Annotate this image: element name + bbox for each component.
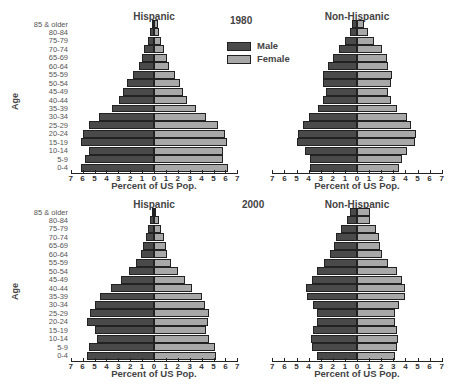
bar-male — [143, 242, 154, 250]
legend-label-male: Male — [257, 40, 278, 51]
x-tick-label: 5 — [413, 362, 423, 371]
x-tick-label: 1 — [137, 362, 147, 371]
bar-female — [357, 225, 376, 233]
bar-male — [339, 45, 357, 53]
bar-female — [154, 96, 187, 104]
bar-male — [323, 71, 357, 79]
bar-male — [100, 293, 154, 301]
x-tick-label: 5 — [209, 174, 219, 183]
bar-male — [87, 318, 154, 326]
x-tick-label: 6 — [78, 174, 88, 183]
x-tick-label: 6 — [279, 174, 289, 183]
bar-female — [154, 352, 216, 360]
bar-female — [357, 155, 402, 163]
bar-female — [154, 326, 206, 334]
x-tick-label: 6 — [279, 362, 289, 371]
bar-male — [317, 352, 357, 360]
bar-female — [357, 37, 374, 45]
x-tick-label: 2 — [125, 174, 135, 183]
bar-male — [123, 88, 154, 96]
bar-male — [347, 216, 357, 224]
bar-male — [310, 155, 357, 163]
bar-male — [350, 28, 357, 36]
age-label: 0-4 — [0, 163, 68, 172]
bar-male — [141, 250, 154, 258]
x-tick-label: 5 — [90, 174, 100, 183]
bar-female — [154, 267, 178, 275]
legend-label-female: Female — [257, 53, 290, 64]
bar-female — [357, 208, 370, 216]
bar-female — [154, 113, 206, 121]
bar-female — [154, 79, 180, 87]
x-tick-label: 1 — [340, 362, 350, 371]
x-tick-label: 0 — [352, 174, 362, 183]
bar-female — [154, 318, 208, 326]
bar-male — [129, 267, 154, 275]
bar-male — [311, 335, 357, 343]
bar-female — [357, 267, 397, 275]
x-tick-label: 6 — [425, 362, 435, 371]
x-tick-label: 4 — [101, 174, 111, 183]
bar-male — [112, 105, 154, 113]
x-tick-label: 7 — [267, 362, 277, 371]
bar-male — [341, 225, 357, 233]
x-tick-label: 4 — [400, 174, 410, 183]
x-tick-label: 3 — [316, 174, 326, 183]
bar-female — [357, 138, 415, 146]
bar-female — [154, 147, 223, 155]
bar-male — [306, 284, 357, 292]
bar-female — [154, 71, 175, 79]
bar-male — [142, 54, 154, 62]
bar-female — [154, 121, 218, 129]
bar-female — [357, 54, 387, 62]
bar-female — [357, 147, 407, 155]
x-tick-label: 3 — [388, 174, 398, 183]
bar-male — [89, 147, 154, 155]
bar-female — [357, 88, 388, 96]
bar-male — [312, 276, 357, 284]
x-tick-label: 2 — [125, 362, 135, 371]
bar-male — [99, 113, 154, 121]
bar-male — [313, 301, 357, 309]
x-tick-label: 7 — [437, 362, 447, 371]
year-label-1980: 1980 — [230, 15, 252, 26]
age-label: 0-4 — [0, 351, 68, 360]
bar-male — [89, 343, 154, 351]
bar-female — [154, 335, 209, 343]
bar-female — [357, 309, 395, 317]
x-tick-label: 1 — [340, 174, 350, 183]
x-tick-label: 6 — [220, 174, 230, 183]
bar-male — [95, 301, 155, 309]
bar-male — [328, 62, 357, 70]
bar-female — [357, 318, 395, 326]
bar-female — [357, 293, 405, 301]
x-tick-label: 2 — [376, 174, 386, 183]
x-tick-label: 3 — [316, 362, 326, 371]
bar-female — [357, 233, 379, 241]
x-tick-label: 6 — [425, 174, 435, 183]
bar-male — [345, 37, 357, 45]
bar-female — [154, 138, 227, 146]
bar-male — [133, 71, 154, 79]
x-tick-label: 1 — [161, 362, 171, 371]
x-tick-label: 3 — [113, 362, 123, 371]
bar-female — [357, 96, 391, 104]
bar-male — [119, 96, 154, 104]
legend-item-female: Female — [227, 53, 290, 66]
bar-female — [154, 28, 159, 36]
bar-female — [154, 343, 215, 351]
bar-female — [154, 62, 169, 70]
bar-female — [154, 216, 159, 224]
x-tick-label: 4 — [197, 362, 207, 371]
bar-male — [121, 276, 154, 284]
bar-female — [154, 45, 164, 53]
bar-male — [323, 96, 357, 104]
bar-female — [154, 284, 192, 292]
bar-female — [154, 130, 225, 138]
bar-male — [139, 62, 154, 70]
x-tick-label: 4 — [304, 174, 314, 183]
bar-male — [144, 45, 154, 53]
bar-male — [111, 284, 154, 292]
bar-male — [87, 352, 154, 360]
x-tick-label: 1 — [137, 174, 147, 183]
